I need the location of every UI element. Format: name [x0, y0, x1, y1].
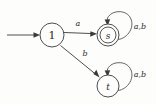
automaton-diagram: a b a,b a,b 1 s	[0, 0, 156, 104]
edge-1-to-s-line	[64, 33, 93, 34]
edge-label-a: a	[76, 19, 81, 28]
state-s-label: s	[106, 31, 111, 41]
state-t-label: t	[106, 82, 110, 92]
state-t[interactable]: t	[97, 75, 119, 97]
arrow-right-icon	[34, 32, 41, 37]
state-s[interactable]: s	[97, 24, 119, 46]
automaton-canvas: a b a,b a,b 1 s	[0, 0, 156, 104]
edge-label-b: b	[82, 49, 87, 58]
edge-1-to-t-line	[61, 46, 97, 75]
edge-label-loop-s: a,b	[134, 22, 146, 31]
edge-1-to-s: a	[64, 19, 97, 37]
state-1-label: 1	[49, 29, 56, 42]
arrow-right-icon	[90, 31, 97, 36]
edge-1-to-t: b	[61, 46, 100, 78]
state-1[interactable]: 1	[40, 23, 64, 47]
edge-label-loop-t: a,b	[134, 70, 146, 79]
arrow-right-icon	[93, 70, 99, 78]
initial-arrow	[7, 32, 40, 37]
